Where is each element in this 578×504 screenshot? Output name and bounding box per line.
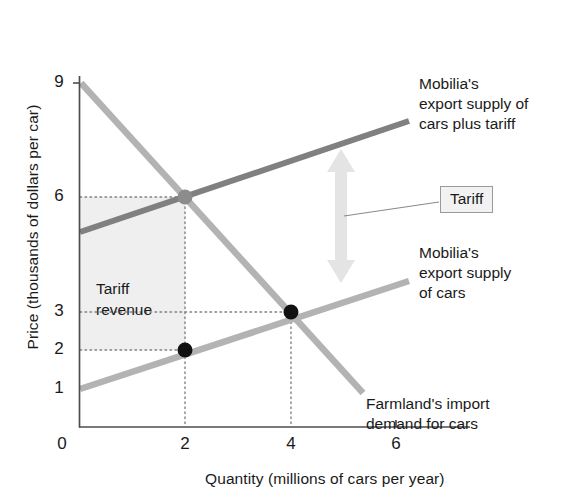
tariff-revenue-region	[80, 197, 185, 350]
x-tick-label-6: 6	[383, 434, 409, 454]
tariff-callout-leader	[344, 202, 439, 216]
marker-supply-at-q2	[178, 343, 193, 358]
y-axis-title: Price (thousands of dollars per car)	[24, 102, 42, 352]
label-export-supply-plus-tariff: Mobilia's export supply of cars plus tar…	[419, 74, 528, 133]
y-tick-label-1: 1	[46, 378, 72, 398]
y-tick-label-9: 9	[46, 72, 72, 92]
tariff-callout-box: Tariff	[440, 186, 493, 213]
label-tariff-revenue: Tariff revenue	[96, 279, 152, 321]
marker-tariff-equilibrium	[178, 190, 193, 205]
y-tick-label-6: 6	[46, 186, 72, 206]
x-axis-title: Quantity (millions of cars per year)	[205, 470, 445, 488]
marker-free-trade-equilibrium	[284, 305, 299, 320]
x-tick-label-2: 2	[172, 434, 198, 454]
y-tick-label-3: 3	[46, 301, 72, 321]
tariff-arrow	[327, 149, 355, 283]
label-import-demand: Farmland's import demand for cars	[366, 394, 490, 434]
label-export-supply: Mobilia's export supply of cars	[419, 243, 511, 302]
tariff-diagram-figure: 9 6 3 2 1 0 2 4 6 Price (thousands of do…	[0, 0, 578, 504]
x-tick-label-0: 0	[49, 434, 75, 454]
x-tick-label-4: 4	[278, 434, 304, 454]
y-tick-label-2: 2	[46, 339, 72, 359]
